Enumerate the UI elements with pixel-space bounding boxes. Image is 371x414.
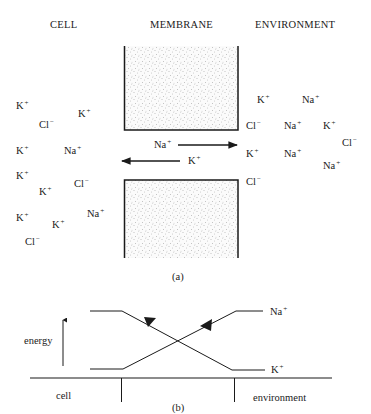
region-label-environment: environment: [253, 393, 306, 404]
na-direction-arrowhead: [200, 319, 212, 331]
curve-label-k: K+: [271, 364, 284, 376]
energy-axis-label: energy: [24, 336, 52, 347]
region-label-cell: cell: [56, 391, 71, 402]
caption-b: (b): [172, 403, 184, 414]
curve-label-na: Na+: [270, 306, 287, 318]
